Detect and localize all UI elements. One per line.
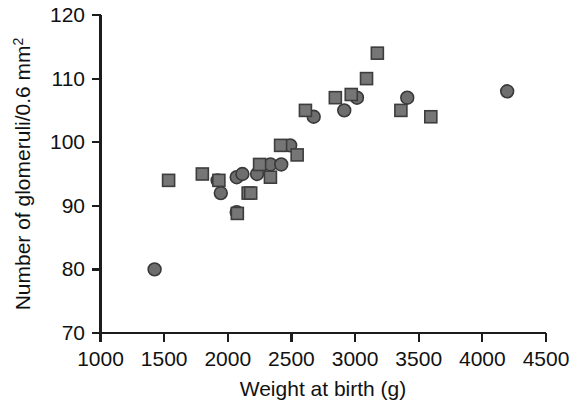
data-point-circle-5 [236,168,249,181]
data-point-square-2 [213,174,225,186]
data-point-square-7 [264,171,276,183]
data-point-square-3 [231,207,243,219]
data-point-square-6 [254,158,266,170]
y-tick-label-100: 100 [50,130,85,153]
data-point-square-9 [291,149,303,161]
data-point-circle-2 [214,187,227,200]
data-point-square-13 [361,73,373,85]
data-point-circle-0 [148,263,161,276]
x-tick-label-1000: 1000 [77,347,124,370]
y-tick-label-80: 80 [62,257,85,280]
x-axis-ticks [101,333,547,342]
data-point-circle-13 [401,91,414,104]
data-point-circle-8 [275,158,288,171]
x-axis-title: Weight at birth (g) [240,377,407,400]
scatter-chart: 708090100110120 100015002000250030003500… [0,0,570,401]
data-point-square-14 [371,47,383,59]
data-point-square-15 [395,104,407,116]
x-tick-label-3500: 3500 [395,347,442,370]
data-point-square-16 [425,111,437,123]
x-axis-tick-labels: 10001500200025003000350040004500 [77,347,569,370]
data-point-square-5 [245,187,257,199]
x-tick-label-2000: 2000 [204,347,251,370]
chart-canvas: 708090100110120 100015002000250030003500… [0,0,570,401]
y-tick-label-110: 110 [52,67,85,90]
data-point-square-8 [275,139,287,151]
y-tick-label-70: 70 [62,321,85,344]
data-point-markers [148,47,513,276]
data-point-circle-11 [338,104,351,117]
x-tick-label-3000: 3000 [332,347,379,370]
y-axis-title-superscript: 2 [10,37,26,45]
data-point-square-12 [345,89,357,101]
x-tick-label-1500: 1500 [141,347,188,370]
data-point-circle-14 [501,85,514,98]
x-tick-label-2500: 2500 [268,347,315,370]
x-tick-label-4000: 4000 [459,347,506,370]
y-axis-title-text: Number of glomeruli/0.6 mm [11,45,34,310]
y-axis-ticks [92,15,101,333]
y-axis-title: Number of glomeruli/0.6 mm2 [10,37,34,310]
data-point-square-1 [196,168,208,180]
data-point-square-11 [329,92,341,104]
y-tick-label-120: 120 [50,3,85,26]
data-point-square-10 [299,104,311,116]
y-tick-label-90: 90 [62,194,85,217]
x-tick-label-4500: 4500 [523,347,570,370]
y-axis-tick-labels: 708090100110120 [50,3,85,344]
data-point-square-0 [163,174,175,186]
y-axis-title-group: Number of glomeruli/0.6 mm2 [10,37,34,310]
